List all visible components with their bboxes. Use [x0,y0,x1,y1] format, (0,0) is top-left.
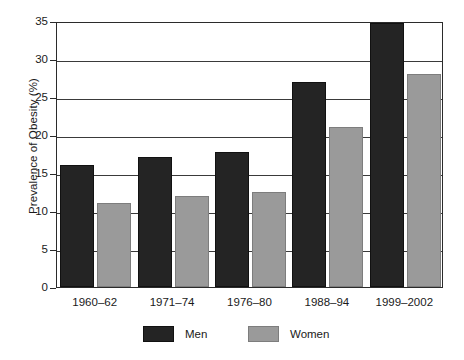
y-axis-tick-label: 10 [6,206,48,218]
legend-swatch-men [143,326,174,342]
legend-label-men: Men [185,327,207,341]
bar-men-0 [60,165,94,287]
x-axis-category-label: 1988–94 [288,296,365,308]
bar-men-4 [370,23,404,287]
bars-layer [57,23,442,287]
bar-women-1 [175,196,209,287]
legend-item-women: Women [248,326,329,342]
x-axis-category-label: 1960–62 [56,296,133,308]
chart-legend: MenWomen [0,326,464,352]
y-axis-tick-mark [50,288,56,289]
bar-women-4 [407,74,441,287]
plot-area [56,22,443,288]
bar-women-3 [329,127,363,287]
y-axis-tick-label: 35 [6,16,48,28]
y-axis-tick-label: 0 [6,282,48,294]
y-axis-tick-label: 5 [6,244,48,256]
bar-men-1 [138,157,172,287]
y-axis-tick-label: 25 [6,92,48,104]
y-axis-tick-labels: 05101520253035 [0,0,48,360]
x-axis-category-label: 1971–74 [133,296,210,308]
legend-label-women: Women [290,327,329,341]
x-axis-category-label: 1976–80 [211,296,288,308]
y-axis-tick-label: 30 [6,54,48,66]
bar-men-3 [292,82,326,287]
y-axis-tick-label: 15 [6,168,48,180]
x-axis-category-label: 1999–2002 [366,296,443,308]
y-axis-tick-label: 20 [6,130,48,142]
obesity-prevalence-bar-chart: Prevalence of Obesity (%) 05101520253035… [0,0,464,360]
bar-men-2 [215,152,249,287]
bar-women-0 [97,203,131,287]
legend-swatch-women [248,326,279,342]
legend-item-men: Men [143,326,207,342]
bar-women-2 [252,192,286,287]
